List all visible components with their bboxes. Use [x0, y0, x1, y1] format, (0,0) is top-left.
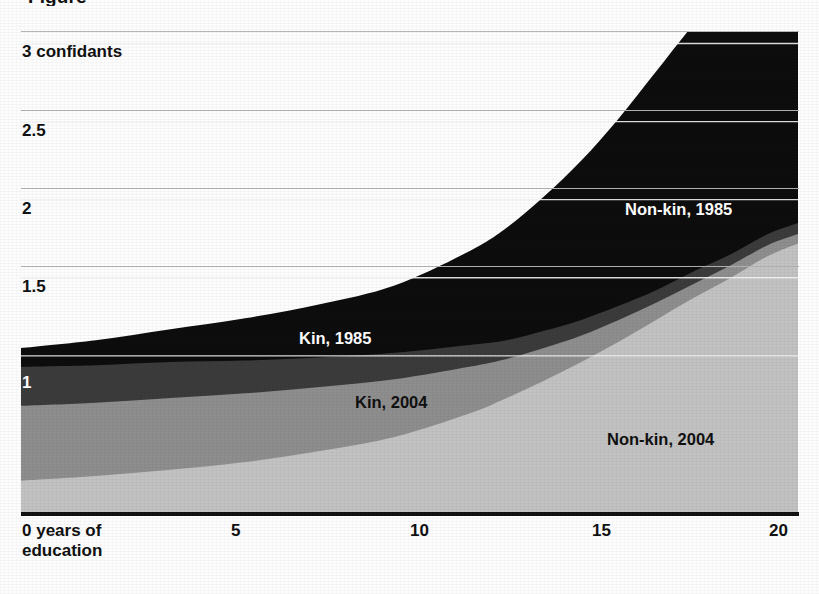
x-tick-0: 0 years of education	[22, 521, 102, 561]
gridline-1-5	[21, 266, 799, 267]
gridline-2-5	[21, 110, 799, 111]
x-tick-5: 5	[231, 521, 240, 541]
x-axis-line	[21, 512, 799, 516]
gridline-3	[21, 31, 799, 32]
series-label-non-kin-1985: Non-kin, 1985	[625, 201, 732, 218]
y-tick-2-5: 2.5	[22, 122, 46, 139]
y-tick-1: 1	[22, 374, 31, 391]
page-title-fragment: Figure	[28, 0, 87, 6]
series-label-non-kin-2004: Non-kin, 2004	[607, 431, 714, 448]
gridline-2	[21, 188, 799, 189]
x-tick-0-line1: 0 years of	[22, 521, 101, 540]
x-tick-10: 10	[410, 521, 429, 541]
y-tick-3: 3 confidants	[22, 43, 122, 60]
series-label-kin-1985: Kin, 1985	[299, 330, 371, 347]
series-label-kin-2004: Kin, 2004	[355, 394, 427, 411]
x-tick-20: 20	[769, 521, 788, 541]
y-tick-1-5: 1.5	[22, 278, 46, 295]
x-axis-label: education	[22, 541, 102, 560]
y-tick-2: 2	[22, 200, 31, 217]
x-tick-15: 15	[592, 521, 611, 541]
chart-figure: Figure 3 confidants 2.5 2 1.5 1 0 years …	[0, 0, 819, 594]
